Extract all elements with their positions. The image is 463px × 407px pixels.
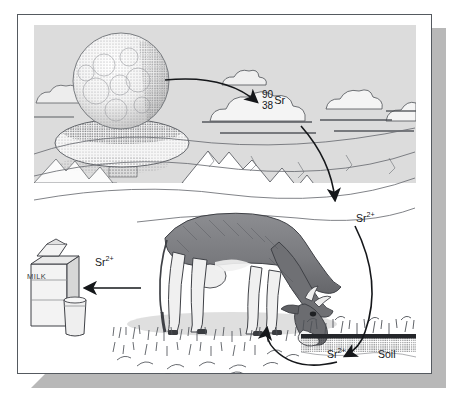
sr-soil-symbol: Sr xyxy=(327,348,338,360)
isotope-mass-number: 90 xyxy=(262,90,273,101)
strontium-ion-air-label: Sr2+ xyxy=(356,211,375,224)
sr-milk-symbol: Sr xyxy=(95,256,106,268)
isotope-label: 90 38 Sr xyxy=(262,90,285,111)
isotope-symbol: Sr xyxy=(273,95,285,106)
strontium-ion-soil-label: Sr2+ xyxy=(327,347,346,360)
figure-root: 90 38 Sr Sr2+ Sr2+ Sr2+ Soil MILK xyxy=(0,0,463,407)
sr-soil-charge: 2+ xyxy=(338,347,346,355)
sr-air-symbol: Sr xyxy=(356,212,367,224)
soil-label: Soil xyxy=(378,348,396,360)
sr-milk-charge: 2+ xyxy=(106,255,114,263)
milk-carton-label: MILK xyxy=(27,272,46,281)
strontium-ion-milk-label: Sr2+ xyxy=(95,255,114,268)
frame-shadow-right xyxy=(432,28,446,388)
frame-shadow-bottom xyxy=(31,374,446,388)
sr-air-charge: 2+ xyxy=(367,211,375,219)
isotope-atomic-number: 38 xyxy=(262,101,273,112)
scene-layer xyxy=(17,14,432,374)
